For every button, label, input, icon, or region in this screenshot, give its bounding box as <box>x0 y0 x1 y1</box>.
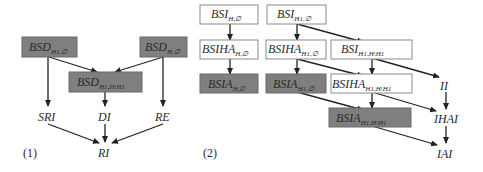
node-re: RE <box>154 110 170 124</box>
edge-bsia-h1-hmh1-to-iai <box>372 126 437 145</box>
node-bsia-h-empty: BSIAH,∅ <box>200 74 258 93</box>
node-subscript: H1,H\H1 <box>364 85 391 93</box>
node-bsiha-h1-hmh1: BSIHAH1,H\H1 <box>331 74 412 93</box>
diagram-canvas: BSDH1,∅ BSDH,∅ BSDH1,H\H1 SRI DI RE RI (… <box>0 0 483 172</box>
node-iai: IAI <box>436 147 453 161</box>
node-subscript: H1,∅ <box>50 48 68 56</box>
node-subscript: H1,H\H1 <box>98 83 125 91</box>
node-subscript: H1,∅ <box>300 50 318 58</box>
node-di: DI <box>97 110 112 124</box>
node-label: BSI <box>341 42 359 56</box>
node-bsd-h-empty: BSDH,∅ <box>140 37 187 57</box>
node-label: BSIHA <box>268 42 302 56</box>
node-bsiha-h-empty: BSIHAH,∅ <box>200 40 258 59</box>
node-label: BSIA <box>208 77 233 91</box>
node-bsi-h-empty: BSIH,∅ <box>200 5 258 24</box>
node-bsd-h1-hmh1: BSDH1,H\H1 <box>69 72 142 92</box>
edge-re-to-ri <box>112 124 163 143</box>
node-sri: SRI <box>38 110 56 124</box>
node-ii: II <box>439 79 449 93</box>
edge-bsiha-h1-empty-to-bsiha-h1-hmh1 <box>297 59 363 76</box>
node-subscript: H,∅ <box>234 50 249 58</box>
node-label: BSD <box>29 40 51 54</box>
node-subscript: H,∅ <box>166 48 181 56</box>
node-bsi-h1-hmh1: BSIH1,H\H1 <box>331 40 412 59</box>
panel-1-edges <box>48 57 163 143</box>
node-label: BSI <box>277 7 295 21</box>
node-label: BSD <box>77 75 99 89</box>
node-ihai: IHAI <box>433 112 459 126</box>
edge-bsi-h1-empty-to-bsi-h1-hmh1 <box>297 24 363 42</box>
panel-1-label: (1) <box>23 146 37 160</box>
node-bsd-h1-empty: BSDH1,∅ <box>22 37 77 57</box>
panel-2: BSIH,∅ BSIH1,∅ BSIHAH,∅ BSIHAH1,∅ BSIH1,… <box>200 5 459 161</box>
panel-1: BSDH1,∅ BSDH,∅ BSDH1,H\H1 SRI DI RE RI (… <box>22 37 187 160</box>
node-bsiha-h1-empty: BSIHAH1,∅ <box>266 40 326 59</box>
edge-bsia-h1-empty-to-bsia-h1-hmh1 <box>297 92 363 110</box>
node-label: BSIA <box>336 111 361 125</box>
node-bsia-h1-hmh1: BSIAH1,H\H1 <box>329 108 411 127</box>
node-subscript: H,∅ <box>232 85 247 93</box>
node-subscript: H1,H\H1 <box>357 50 384 58</box>
node-label: BSI <box>211 7 229 21</box>
node-subscript: H1,H\H1 <box>360 119 387 127</box>
node-label: BSIA <box>273 77 298 91</box>
node-bsia-h1-empty: BSIAH1,∅ <box>266 74 326 93</box>
node-label: BSIHA <box>332 77 366 91</box>
node-subscript: H1,∅ <box>297 85 315 93</box>
node-bsi-h1-empty: BSIH1,∅ <box>267 5 326 24</box>
panel-2-label: (2) <box>203 146 217 160</box>
node-label: BSD <box>145 40 167 54</box>
node-label: BSIHA <box>202 42 236 56</box>
edge-bsd-h1-empty-to-bsd-h1-hmh1 <box>49 57 97 72</box>
node-ri: RI <box>97 146 110 160</box>
node-subscript: H1,∅ <box>293 15 311 23</box>
edge-bsd-h-empty-to-bsd-h1-hmh1 <box>115 57 163 72</box>
edge-sri-to-ri <box>48 124 99 143</box>
node-subscript: H,∅ <box>227 15 242 23</box>
